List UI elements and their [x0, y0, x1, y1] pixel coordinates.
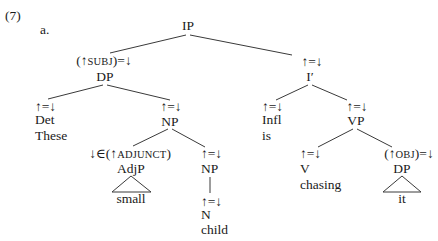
annotation-obj-prefix: (↑	[384, 146, 395, 161]
node-v: V	[300, 162, 310, 176]
word-these: These	[35, 129, 67, 143]
sub-label: a.	[40, 23, 49, 37]
node-dp-obj: DP	[393, 162, 410, 176]
example-number: (7)	[5, 9, 21, 23]
node-det: Det	[35, 113, 55, 127]
node-n: N	[201, 208, 211, 222]
edge-dp-np	[107, 85, 170, 100]
annotation-np-lower: ↑=↓	[201, 147, 222, 161]
edge-ip-ibar	[190, 35, 292, 55]
node-infl: Infl	[262, 113, 282, 127]
annotation-subj: (↑SUBJ)=↓	[76, 54, 131, 69]
node-ip: IP	[182, 19, 194, 33]
word-is: is	[262, 129, 271, 143]
word-child: child	[201, 223, 228, 237]
node-np-lower: NP	[201, 162, 218, 176]
edge-np-adjp	[133, 129, 168, 146]
annotation-adjunct-function: ADJUNCT	[117, 149, 166, 160]
edge-vp-v	[318, 129, 353, 147]
annotation-subj-function: SUBJ	[88, 56, 113, 67]
triangle-obj-dp	[383, 176, 421, 192]
edge-np-np	[172, 129, 205, 147]
annotation-subj-prefix: (↑	[76, 53, 87, 68]
annotation-obj-suffix: )=↓	[415, 146, 434, 161]
annotation-vp: ↑=↓	[346, 100, 367, 114]
edge-vp-dp	[357, 129, 392, 147]
annotation-adjunct-suffix: )	[166, 146, 171, 161]
edge-dp-det	[48, 85, 103, 99]
node-ibar: I′	[306, 70, 313, 84]
edge-ibar-vp	[312, 85, 347, 100]
node-vp: VP	[347, 114, 364, 128]
edge-ip-dp	[110, 35, 186, 53]
annotation-v: ↑=↓	[300, 147, 321, 161]
word-small: small	[116, 192, 145, 206]
word-it: it	[398, 192, 406, 206]
annotation-adjunct-prefix: ↓∈(↑	[89, 146, 117, 161]
node-adjp: AdjP	[117, 162, 145, 176]
annotation-ibar: ↑=↓	[301, 55, 322, 69]
annotation-subj-suffix: )=↓	[113, 53, 132, 68]
edge-ibar-infl	[276, 85, 308, 100]
word-chasing: chasing	[300, 178, 341, 192]
annotation-obj: (↑OBJ)=↓	[384, 147, 433, 162]
node-dp-subj: DP	[96, 70, 113, 84]
annotation-adjunct: ↓∈(↑ADJUNCT)	[89, 147, 171, 162]
triangle-adjp	[112, 176, 151, 192]
annotation-np-upper: ↑=↓	[160, 100, 181, 114]
annotation-obj-function: OBJ	[396, 149, 415, 160]
node-np-upper: NP	[161, 115, 178, 129]
